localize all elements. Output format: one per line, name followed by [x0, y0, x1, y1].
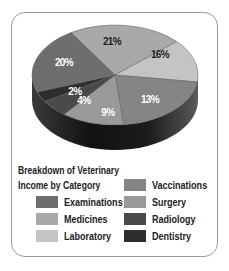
- slice-label-surgery: 9%: [101, 107, 115, 118]
- legend-title-line-1: Breakdown of Veterinary: [18, 163, 119, 178]
- legend-label: Medicines: [64, 213, 108, 225]
- slice-label-examinations: 20%: [55, 57, 74, 68]
- legend-swatch: [36, 213, 58, 225]
- legend-swatch: [124, 213, 146, 225]
- legend-item-examinations: Examinations: [36, 193, 136, 210]
- slice-label-medicines: 21%: [103, 36, 122, 47]
- legend-label: Surgery: [152, 196, 186, 208]
- legend-label: Radiology: [152, 213, 196, 225]
- legend-item-laboratory: Laboratory: [36, 227, 136, 244]
- legend-swatch: [36, 230, 58, 242]
- legend-label: Examinations: [64, 196, 123, 208]
- legend-item-medicines: Medicines: [36, 210, 136, 227]
- legend-item-dentistry: Dentistry: [124, 227, 219, 244]
- legend-swatch: [124, 196, 146, 208]
- legend-label: Dentistry: [152, 230, 191, 242]
- legend-swatch: [36, 196, 58, 208]
- legend-item-vaccinations: Vaccinations: [124, 176, 219, 193]
- legend-left-column: Examinations Medicines Laboratory: [36, 193, 136, 244]
- legend-title-line-2: Income by Category: [18, 178, 119, 193]
- legend-label: Laboratory: [64, 230, 111, 242]
- legend-right-column: Vaccinations Surgery Radiology Dentistry: [124, 176, 219, 244]
- legend-title: Breakdown of Veterinary Income by Catego…: [18, 163, 119, 193]
- legend-swatch: [124, 230, 146, 242]
- legend-item-radiology: Radiology: [124, 210, 219, 227]
- legend-item-surgery: Surgery: [124, 193, 219, 210]
- slice-label-laboratory: 16%: [151, 49, 170, 60]
- slice-label-vaccinations: 13%: [141, 94, 160, 105]
- slice-label-dentistry: 2%: [68, 86, 82, 97]
- legend-label: Vaccinations: [152, 179, 207, 191]
- legend-swatch: [124, 179, 146, 191]
